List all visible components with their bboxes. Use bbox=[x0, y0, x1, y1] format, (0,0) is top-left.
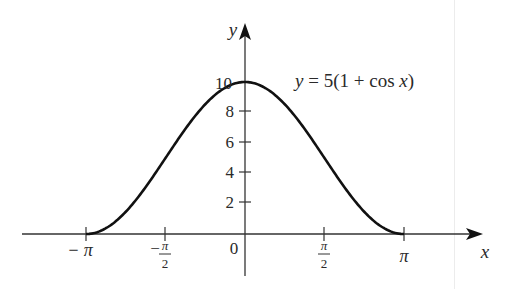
y-tick-label-8: 8 bbox=[226, 102, 235, 121]
x-tick-label-pi: π bbox=[399, 246, 409, 266]
x-tick-label-half-pi: π 2 bbox=[318, 238, 330, 271]
y-axis-label: y bbox=[227, 19, 238, 40]
svg-text:2: 2 bbox=[162, 256, 169, 271]
equation-label: y = 5(1 + cos x) bbox=[293, 70, 414, 92]
y-tick-label-2: 2 bbox=[226, 193, 235, 212]
y-tick-label-10: 10 bbox=[215, 74, 232, 93]
y-tick-label-4: 4 bbox=[226, 163, 235, 182]
svg-text:π: π bbox=[162, 238, 169, 253]
x-tick-label-neg-pi: − π bbox=[67, 240, 94, 260]
origin-label: 0 bbox=[230, 239, 239, 258]
y-axis bbox=[239, 23, 251, 276]
svg-text:2: 2 bbox=[321, 256, 328, 271]
x-tick-label-neg-half-pi: − π 2 bbox=[150, 238, 171, 271]
svg-text:π: π bbox=[321, 238, 328, 253]
y-tick-label-6: 6 bbox=[226, 133, 235, 152]
cosine-plot: 10 8 6 4 2 0 y x y = 5(1 + cos x) − π − … bbox=[0, 0, 517, 289]
svg-text:−: − bbox=[150, 239, 160, 258]
x-axis-label: x bbox=[480, 241, 490, 262]
